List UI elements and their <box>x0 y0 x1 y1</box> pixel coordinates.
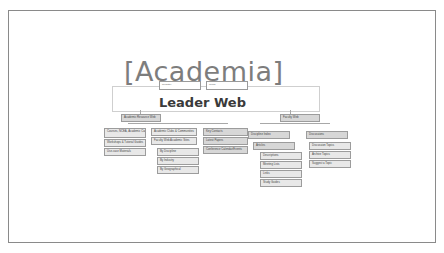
academic-col2-item[interactable]: Faculty Web Academic Sites <box>151 137 197 145</box>
faculty-right-item[interactable]: Discussions <box>306 131 348 139</box>
academic-col2-item[interactable]: Academic Clubs & Communities <box>151 128 197 136</box>
faculty-right-sub-item[interactable]: Discussion Topics <box>309 142 351 150</box>
academic-col2-sub-item[interactable]: By Discipline <box>157 148 199 156</box>
faculty-right-sub-item[interactable]: Archive Topics <box>309 151 351 159</box>
diagram-frame <box>8 10 436 243</box>
faculty-left-sub-item[interactable]: Links <box>260 170 302 178</box>
faculty-left-item[interactable]: Articles <box>253 142 295 150</box>
faculty-left-item[interactable]: Discipline Index <box>248 131 290 139</box>
page-title: Leader Web <box>159 95 246 110</box>
connector <box>128 123 228 124</box>
academic-col2-sub-item[interactable]: By Industry <box>157 157 199 165</box>
faculty-left-sub-item[interactable]: Descriptions <box>260 152 302 160</box>
academic-col1-item[interactable]: Workshops & Tutorial Guides <box>104 139 146 147</box>
academic-resource-web-node[interactable]: Academic Resource Web <box>121 114 161 122</box>
brand-logo: [Academia] <box>124 58 284 85</box>
connector <box>260 123 330 124</box>
academic-col3-item[interactable]: Conference Calendar/Events <box>203 146 248 154</box>
academic-col1-item[interactable]: Use-case Materials <box>104 148 146 156</box>
register-field[interactable]: Register <box>159 81 201 90</box>
faculty-left-sub-item[interactable]: Meeting Lists <box>260 161 302 169</box>
academic-col2-sub-item[interactable]: By Geographical <box>157 166 199 174</box>
guide-field[interactable]: Guide <box>206 81 248 90</box>
faculty-left-sub-item[interactable]: Study Guides <box>260 179 302 187</box>
academic-col3-item[interactable]: Key Contacts <box>203 128 248 136</box>
faculty-right-sub-item[interactable]: Suggest a Topic <box>309 160 351 168</box>
academic-col3-item[interactable]: Latest Papers <box>203 137 248 145</box>
academic-col1-item[interactable]: Courses, NCEA, Academic Careers/Scholars… <box>104 128 146 138</box>
faculty-web-node[interactable]: Faculty Web <box>280 114 320 122</box>
